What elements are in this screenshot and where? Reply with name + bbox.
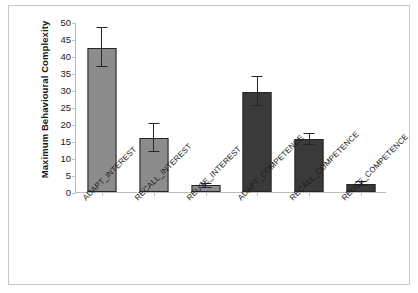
x-axis-category-labels: ADAPT_INTERESTRECALL_INTERESTREUSE_INTER… (75, 196, 386, 291)
y-tick-label: 10 (60, 153, 71, 164)
y-tick-label: 0 (66, 187, 71, 198)
error-bar (148, 123, 159, 152)
error-bar (252, 76, 263, 105)
error-bar-cap-bottom (304, 144, 315, 145)
y-tick-label: 15 (60, 136, 71, 147)
y-tick-label: 50 (60, 17, 71, 28)
error-bar-line (257, 76, 258, 105)
figure-canvas: Maximum Behavioural Complexity 504540353… (0, 0, 418, 293)
y-tick-label: 45 (60, 34, 71, 45)
chart-frame: Maximum Behavioural Complexity 504540353… (8, 5, 410, 285)
error-bar-cap-bottom (252, 105, 263, 106)
error-bar-line (153, 123, 154, 152)
y-tick-label: 25 (60, 102, 71, 113)
error-bar-cap-bottom (148, 151, 159, 152)
error-bar-cap-top (252, 76, 263, 77)
y-tick-label: 40 (60, 51, 71, 62)
y-tick-label: 30 (60, 85, 71, 96)
error-bar-cap-top (96, 27, 107, 28)
y-tick-label: 35 (60, 68, 71, 79)
error-bar-cap-top (148, 123, 159, 124)
y-tick-mark (72, 193, 76, 194)
error-bar (96, 27, 107, 67)
error-bar-cap-top (304, 133, 315, 134)
y-axis-title: Maximum Behavioural Complexity (39, 10, 50, 190)
error-bar-line (101, 27, 102, 67)
y-tick-label: 5 (66, 170, 71, 181)
y-tick-label: 20 (60, 119, 71, 130)
error-bar-cap-bottom (96, 66, 107, 67)
